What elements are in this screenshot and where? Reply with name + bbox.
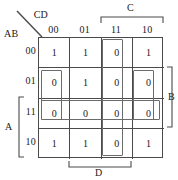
bracket-label-a: A <box>5 121 13 132</box>
karnaugh-map-diagram: CD AB 00 01 11 10 00 01 11 10 1 1 0 1 0 … <box>0 0 178 180</box>
kmap-cell-r2c3[interactable]: 0 <box>133 99 164 129</box>
row-header-0: 00 <box>18 45 36 56</box>
bracket-label-d: D <box>95 167 103 178</box>
kmap-cell-r3c2[interactable]: 0 <box>102 129 133 159</box>
column-header-3: 10 <box>132 24 163 35</box>
row-header-1: 01 <box>18 75 36 86</box>
kmap-cell-r0c0[interactable]: 1 <box>39 38 70 68</box>
kmap-cell-r2c2[interactable]: 0 <box>102 99 133 129</box>
kmap-cell-r3c1[interactable]: 1 <box>70 129 101 159</box>
bracket-a <box>15 96 25 158</box>
column-header-1: 01 <box>69 24 100 35</box>
kmap-cell-r0c1[interactable]: 1 <box>70 38 101 68</box>
bracket-label-b: B <box>168 91 175 102</box>
kmap-cell-r3c0[interactable]: 1 <box>39 129 70 159</box>
kmap-cell-r1c0[interactable]: 0 <box>39 68 70 98</box>
kmap-cell-r1c3[interactable]: 0 <box>133 68 164 98</box>
column-variables-label: CD <box>34 9 48 20</box>
column-header-0: 00 <box>38 24 69 35</box>
kmap-cell-r3c3[interactable]: 1 <box>133 129 164 159</box>
kmap-grid: 1 1 0 1 0 1 0 0 0 0 0 0 1 1 0 1 <box>38 37 163 158</box>
column-header-2: 11 <box>101 24 132 35</box>
kmap-cell-r1c1[interactable]: 1 <box>70 68 101 98</box>
kmap-cell-r2c0[interactable]: 0 <box>39 99 70 129</box>
kmap-cell-r2c1[interactable]: 0 <box>70 99 101 129</box>
bracket-label-c: C <box>127 2 134 13</box>
bracket-c <box>100 14 164 24</box>
kmap-cell-r1c2[interactable]: 0 <box>102 68 133 98</box>
row-variables-label: AB <box>4 28 18 39</box>
kmap-cell-r0c3[interactable]: 1 <box>133 38 164 68</box>
kmap-cell-r0c2[interactable]: 0 <box>102 38 133 68</box>
